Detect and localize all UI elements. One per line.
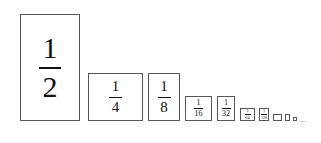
fraction-numerator: 1 [160, 79, 168, 94]
fraction-numerator: 1 [224, 99, 228, 107]
series-term-box: 18 [148, 73, 180, 121]
fraction-bar [109, 97, 122, 98]
fraction-denominator: 64 [245, 116, 250, 121]
fraction-label: 116 [194, 99, 203, 118]
fraction-label: 12 [39, 33, 61, 102]
series-term-box: 1128 [259, 108, 269, 121]
fraction-bar [158, 97, 171, 98]
series-term-box: 1512 [285, 114, 290, 121]
fraction-denominator: 16 [195, 110, 203, 118]
fraction-denominator: 2 [43, 72, 58, 103]
series-ellipsis: ... [300, 117, 306, 123]
fraction-denominator: 128 [261, 116, 267, 120]
series-term-box: 11024 [293, 117, 297, 121]
fraction-bar [39, 67, 61, 69]
fraction-numerator: 1 [43, 33, 58, 64]
fraction-label: 1128 [261, 109, 267, 119]
series-term-box: 116 [185, 96, 212, 121]
fraction-numerator: 1 [112, 79, 120, 94]
fraction-numerator: 1 [246, 109, 248, 114]
fraction-denominator: 8 [160, 100, 168, 115]
series-term-box: 1256 [273, 114, 282, 121]
series-term-box: 164 [240, 108, 255, 121]
fraction-label: 132 [222, 99, 231, 118]
fraction-label: 18 [158, 79, 171, 115]
fraction-denominator: 4 [112, 100, 120, 115]
fraction-numerator: 1 [197, 99, 201, 107]
series-term-box: 14 [88, 73, 143, 121]
fraction-denominator: 32 [222, 110, 230, 118]
fraction-label: 14 [109, 79, 122, 115]
series-term-box: 12 [20, 14, 80, 121]
fraction-numerator: 1 [263, 109, 265, 113]
geometric-series-figure: 12141811613216411281256151211024... [0, 0, 321, 143]
fraction-label: 164 [245, 109, 251, 120]
series-term-box: 132 [217, 96, 235, 121]
